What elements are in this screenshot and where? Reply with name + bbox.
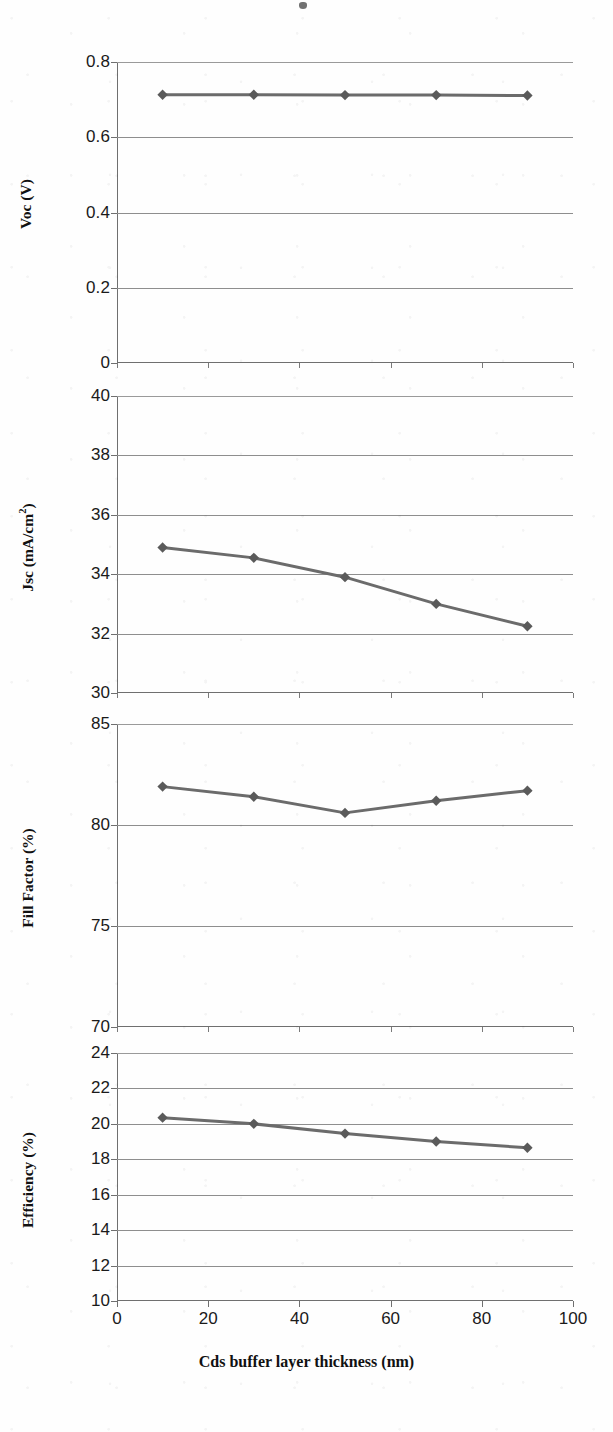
data-point-marker: [522, 621, 532, 631]
x-tick-mark: [391, 1027, 392, 1032]
data-point-marker: [157, 90, 167, 100]
x-axis-ticks: 020406080100: [117, 1301, 573, 1341]
y-axis-title-efficiency: Efficiency (%): [19, 1115, 37, 1245]
series-line-jsc: [117, 396, 573, 693]
data-point-marker: [522, 1143, 532, 1153]
data-point-marker: [249, 792, 259, 802]
data-point-marker: [157, 542, 167, 552]
y-axis-title-voc: Voc (V): [17, 144, 35, 264]
y-tick-label: 70: [91, 1017, 110, 1037]
data-point-marker: [249, 553, 259, 563]
plot-area-efficiency: 1012141618202224 020406080100: [117, 1053, 573, 1301]
x-tick-mark: [117, 693, 118, 698]
x-tick-mark: [573, 1027, 574, 1032]
x-tick-mark: [208, 693, 209, 698]
x-axis-tick-mark: [391, 1301, 392, 1307]
chart-panel-efficiency: 1012141618202224 020406080100 Efficiency…: [0, 1053, 613, 1363]
chart-panel-voc: 00.20.40.60.8 Voc (V): [0, 0, 613, 396]
y-tick-label: 36: [91, 505, 110, 525]
data-line: [163, 547, 528, 626]
y-tick-label: 0.2: [86, 278, 110, 298]
x-axis-title: Cds buffer layer thickness (nm): [0, 1353, 613, 1371]
x-tick-label: 40: [290, 1309, 309, 1329]
x-tick-mark: [208, 1027, 209, 1032]
data-point-marker: [249, 1119, 259, 1129]
y-axis-title-jsc: Jsc (mA/cm2): [17, 484, 36, 612]
y-tick-label: 16: [91, 1185, 110, 1205]
y-tick-label: 24: [91, 1043, 110, 1063]
x-axis-tick-mark: [208, 1301, 209, 1307]
x-tick-mark: [482, 693, 483, 698]
data-point-marker: [340, 1128, 350, 1138]
data-point-marker: [431, 90, 441, 100]
y-tick-label: 0: [100, 353, 110, 373]
y-tick-label: 20: [91, 1114, 110, 1134]
y-axis-title-fill-factor: Fill Factor (%): [19, 813, 37, 943]
y-tick-label: 0.6: [86, 127, 110, 147]
x-tick-label: 60: [381, 1309, 400, 1329]
y-tick-label: 22: [91, 1078, 110, 1098]
data-point-marker: [522, 785, 532, 795]
plot-area-jsc: 303234363840: [117, 396, 573, 693]
y-tick-label: 14: [91, 1220, 110, 1240]
plot-area-voc: 00.20.40.60.8: [117, 62, 573, 363]
data-point-marker: [249, 90, 259, 100]
y-tick-mark: [111, 1027, 117, 1028]
data-point-marker: [431, 1136, 441, 1146]
data-point-marker: [340, 808, 350, 818]
y-tick-label: 10: [91, 1291, 110, 1311]
x-tick-label: 100: [559, 1309, 587, 1329]
y-tick-label: 75: [91, 916, 110, 936]
y-tick-label: 18: [91, 1149, 110, 1169]
y-tick-label: 0.4: [86, 203, 110, 223]
x-tick-mark: [117, 1027, 118, 1032]
y-tick-mark: [111, 693, 117, 694]
x-tick-mark: [299, 1027, 300, 1032]
chart-panel-jsc: 303234363840 Jsc (mA/cm2): [0, 396, 613, 693]
x-axis-tick-mark: [299, 1301, 300, 1307]
data-point-marker: [157, 1112, 167, 1122]
data-point-marker: [431, 599, 441, 609]
y-tick-label: 32: [91, 624, 110, 644]
y-tick-label: 80: [91, 815, 110, 835]
data-point-marker: [522, 90, 532, 100]
series-line-efficiency: [117, 1053, 573, 1301]
x-tick-mark: [391, 693, 392, 698]
data-point-marker: [157, 781, 167, 791]
x-tick-mark: [391, 363, 392, 368]
y-tick-label: 34: [91, 564, 110, 584]
x-tick-mark: [117, 363, 118, 368]
x-axis-tick-mark: [482, 1301, 483, 1307]
y-tick-label: 0.8: [86, 52, 110, 72]
figure-root: 00.20.40.60.8 Voc (V) 303234363840 Jsc (…: [0, 0, 613, 1432]
series-line-fill-factor: [117, 724, 573, 1027]
x-tick-label: 0: [112, 1309, 121, 1329]
x-axis-tick-mark: [573, 1301, 574, 1307]
y-tick-label: 40: [91, 386, 110, 406]
y-tick-label: 12: [91, 1256, 110, 1276]
series-line-voc: [117, 62, 573, 363]
plot-area-fill-factor: 70758085: [117, 724, 573, 1027]
y-tick-label: 38: [91, 445, 110, 465]
x-tick-mark: [573, 693, 574, 698]
x-tick-mark: [208, 363, 209, 368]
data-point-marker: [340, 572, 350, 582]
y-tick-label: 85: [91, 714, 110, 734]
chart-panel-fill-factor: 70758085 Fill Factor (%): [0, 724, 613, 1027]
x-tick-mark: [482, 1027, 483, 1032]
y-tick-mark: [111, 363, 117, 364]
data-point-marker: [340, 90, 350, 100]
x-tick-label: 20: [199, 1309, 218, 1329]
y-tick-label: 30: [91, 683, 110, 703]
x-tick-label: 80: [472, 1309, 491, 1329]
x-tick-mark: [299, 693, 300, 698]
x-axis-tick-mark: [117, 1301, 118, 1307]
x-tick-mark: [482, 363, 483, 368]
data-point-marker: [431, 796, 441, 806]
x-tick-mark: [573, 363, 574, 368]
x-tick-mark: [299, 363, 300, 368]
